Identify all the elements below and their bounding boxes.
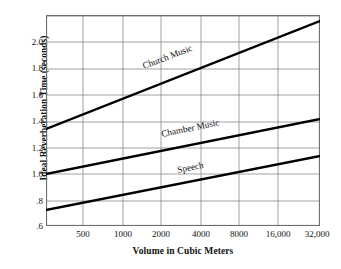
y-tick-label-0-6: .6 xyxy=(13,222,43,231)
y-tick-label-0-8: .8 xyxy=(13,197,43,206)
plot-area: Church Music Chamber Music Speech xyxy=(46,15,320,226)
series-label-church-music: Church Music xyxy=(141,43,193,71)
y-tick-label-1-6: 1.6 xyxy=(13,91,43,100)
x-tick-label-32000: 32,000 xyxy=(293,229,341,239)
series-label-chamber-music: Chamber Music xyxy=(160,117,220,139)
series-label-speech: Speech xyxy=(176,160,204,175)
y-tick-label-1-4: 1.4 xyxy=(13,117,43,126)
y-tick-label-1-0: 1.0 xyxy=(13,170,43,179)
y-tick-label-1-2: 1.2 xyxy=(13,144,43,153)
y-tick-label-1-8: 1.8 xyxy=(13,64,43,73)
x-axis-title: Volume in Cubic Meters xyxy=(46,246,320,256)
plot-svg: Church Music Chamber Music Speech xyxy=(46,15,320,226)
y-tick-label-2-0: 2.0 xyxy=(13,38,43,47)
reverberation-time-chart: Ideal Reverberation Time (seconds) 2.0 1… xyxy=(0,0,341,269)
series-line-church-music xyxy=(46,21,320,129)
